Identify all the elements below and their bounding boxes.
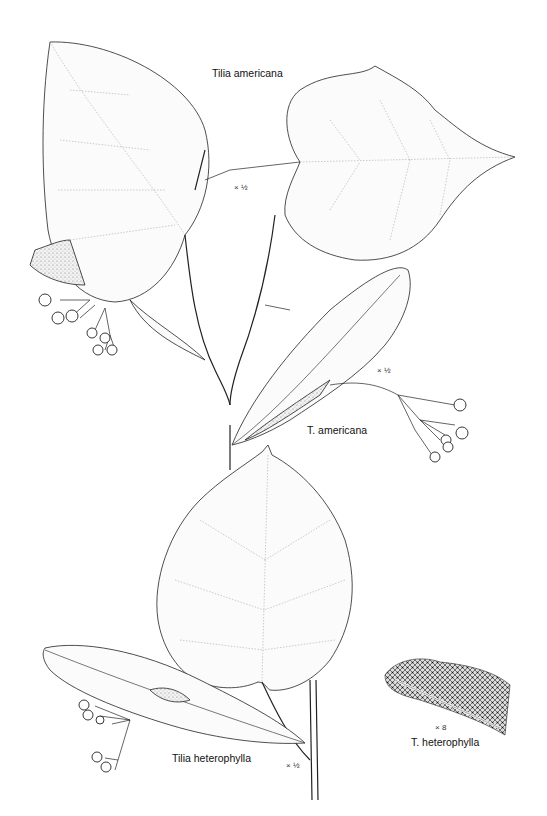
fruit-cluster-bottom <box>79 700 130 772</box>
tilia-heterophylla-branch <box>43 445 352 800</box>
scale-top: × ½ <box>234 183 248 192</box>
scale-middle: × ½ <box>377 366 391 375</box>
fruit-cluster-top <box>39 294 117 355</box>
tilia-americana-branch <box>30 42 515 405</box>
label-tilia-americana: Tilia americana <box>212 67 283 79</box>
leaf-lower-fragment <box>130 300 205 360</box>
label-t-heterophylla: T. heterophylla <box>411 736 479 748</box>
scale-detail: × 8 <box>435 723 446 732</box>
t-americana-fruit-bract <box>230 268 468 470</box>
t-heterophylla-leaf-underside-detail <box>385 659 510 735</box>
label-t-americana: T. americana <box>307 424 367 436</box>
leaf-large-right <box>285 66 515 260</box>
bract-elongated <box>232 268 410 445</box>
leaf-heterophylla <box>157 445 352 690</box>
botanical-plate <box>0 0 547 816</box>
fruit-cluster-middle <box>398 395 468 462</box>
label-tilia-heterophylla: Tilia heterophylla <box>172 752 251 764</box>
scale-bottom: × ½ <box>286 761 300 770</box>
